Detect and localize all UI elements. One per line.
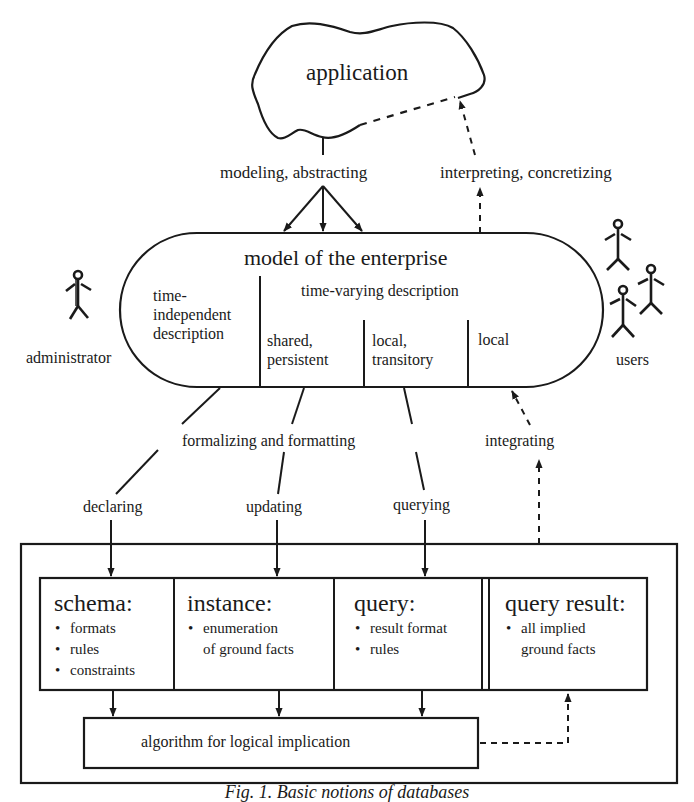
algorithm-to-result-arrow: [480, 694, 568, 743]
users-label: users: [616, 352, 649, 368]
query-result-title: query result:: [505, 591, 626, 615]
interpreting-concretizing-label: interpreting, concretizing: [440, 164, 612, 181]
schema-cell: schema: formats rules constraints: [54, 591, 135, 681]
time-independent-line-2: independent: [153, 305, 231, 324]
local-transitory-line-2: transitory: [372, 350, 433, 369]
algorithm-label: algorithm for logical implication: [141, 734, 350, 750]
schema-item: rules: [54, 639, 135, 660]
formalizing-line-1b: [116, 450, 158, 494]
query-cell: query: result format rules: [354, 591, 447, 660]
integrating-arrow-upper: [512, 391, 530, 425]
query-result-list: all implied ground facts: [505, 618, 626, 660]
time-independent-description: time- independent description: [153, 286, 231, 343]
schema-item: constraints: [54, 660, 135, 681]
user-figure-icon-1: [605, 220, 631, 270]
time-independent-line-1: time-: [153, 286, 231, 305]
schema-item: formats: [54, 618, 135, 639]
shared-persistent-label: shared, persistent: [267, 331, 328, 369]
application-cloud-dashed: [360, 97, 455, 125]
querying-label: querying: [393, 497, 450, 513]
model-title: model of the enterprise: [244, 247, 447, 269]
instance-title: instance:: [187, 591, 294, 615]
integrating-label: integrating: [485, 433, 554, 449]
interpreting-arrow-upper: [460, 101, 475, 155]
modeling-arrow-right: [323, 186, 362, 231]
time-varying-description: time-varying description: [301, 283, 459, 299]
local-transitory-line-1: local,: [372, 331, 433, 350]
instance-cell: instance: enumeration of ground facts: [187, 591, 294, 660]
instance-item-continuation: of ground facts: [187, 639, 294, 660]
query-result-item: all implied: [505, 618, 626, 639]
formalizing-line-2b: [278, 452, 284, 494]
shared-line-1: shared,: [267, 331, 328, 350]
local-label: local: [478, 332, 509, 348]
schema-list: formats rules constraints: [54, 618, 135, 681]
shared-line-2: persistent: [267, 350, 328, 369]
instance-item: enumeration: [187, 618, 294, 639]
formalizing-line-1a: [182, 388, 220, 424]
query-result-item-continuation: ground facts: [505, 639, 626, 660]
formalizing-line-3b: [416, 452, 424, 490]
figure-caption: Fig. 1. Basic notions of databases: [0, 783, 694, 801]
formalizing-line-3a: [404, 388, 412, 424]
time-independent-line-3: description: [153, 324, 231, 343]
declaring-label: declaring: [83, 499, 143, 515]
user-figure-icon-2: [638, 265, 664, 314]
query-list: result format rules: [354, 618, 447, 660]
schema-title: schema:: [54, 591, 135, 615]
application-label: application: [306, 61, 408, 84]
administrator-figure-icon: [66, 271, 91, 319]
user-figure-icon-3: [610, 286, 636, 337]
instance-list: enumeration of ground facts: [187, 618, 294, 660]
query-item: result format: [354, 618, 447, 639]
local-transitory-label: local, transitory: [372, 331, 433, 369]
modeling-arrow-left: [284, 186, 323, 231]
modeling-abstracting-label: modeling, abstracting: [220, 164, 367, 181]
administrator-label: administrator: [26, 350, 111, 366]
formalizing-line-2a: [292, 388, 304, 424]
query-title: query:: [354, 591, 447, 615]
query-result-cell: query result: all implied ground facts: [505, 591, 626, 660]
query-item: rules: [354, 639, 447, 660]
updating-label: updating: [246, 499, 302, 515]
formalizing-formatting-label: formalizing and formatting: [182, 433, 355, 449]
